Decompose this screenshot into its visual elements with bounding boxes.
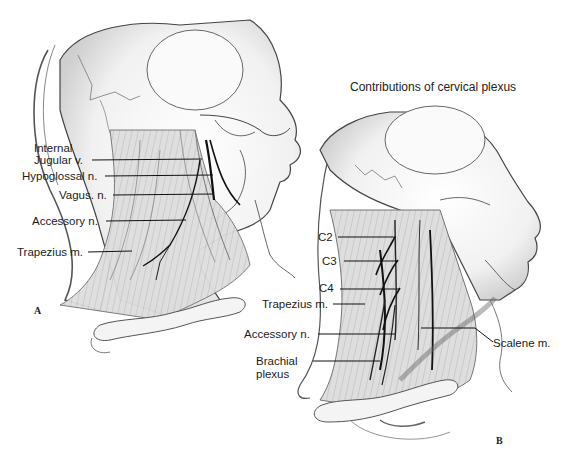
label-hypoglossal-n: Hypoglossal n.	[22, 170, 97, 183]
label-plexus: plexus	[256, 368, 289, 381]
label-accessory-n: Accessory n.	[32, 215, 98, 228]
label-c3: C3	[322, 255, 337, 268]
panel-a-drawing	[34, 20, 300, 353]
label-accessory-n-b: Accessory n.	[244, 328, 310, 341]
label-trapezius-m: Trapezius m.	[17, 246, 83, 259]
label-jugular-v: Jugular v.	[34, 154, 83, 167]
panel-letter-b: B	[496, 435, 503, 446]
anatomical-illustration	[0, 0, 570, 468]
figure-title: Contributions of cervical plexus	[350, 80, 516, 94]
panel-letter-a: A	[34, 305, 41, 316]
label-trapezius-m-b: Trapezius m.	[262, 298, 328, 311]
label-vagus-n: Vagus. n.	[59, 189, 107, 202]
label-c2: C2	[318, 231, 333, 244]
panel-b-drawing	[298, 106, 540, 439]
label-scalene-m: Scalene m.	[493, 337, 551, 350]
label-c4: C4	[319, 282, 334, 295]
label-brachial: Brachial	[256, 355, 298, 368]
